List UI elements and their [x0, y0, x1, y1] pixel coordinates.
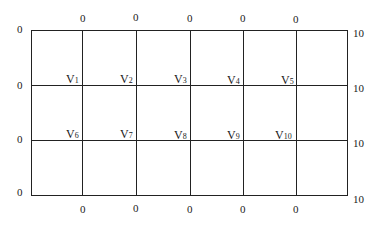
grid-line-col3	[190, 30, 191, 196]
node-label-v6: V6	[66, 128, 79, 142]
left-boundary-value: 0	[17, 187, 23, 198]
node-label-v9: V9	[227, 129, 240, 143]
bottom-boundary-value: 0	[293, 204, 299, 215]
node-label-v1: V1	[66, 73, 79, 87]
grid-line-col2	[136, 30, 137, 196]
node-label-v5: V5	[281, 74, 294, 88]
top-boundary-value: 0	[80, 13, 86, 24]
top-boundary-value: 0	[133, 12, 139, 23]
grid-line-col4	[243, 30, 244, 196]
node-label-v10: V10	[275, 129, 292, 143]
top-boundary-value: 0	[240, 13, 246, 24]
bottom-boundary-value: 0	[187, 204, 193, 215]
top-boundary-value: 0	[187, 13, 193, 24]
node-label-v8: V8	[174, 129, 187, 143]
right-boundary-value: 10	[353, 83, 364, 94]
grid-line-right	[347, 30, 348, 196]
node-label-v4: V4	[227, 74, 240, 88]
bottom-boundary-value: 0	[133, 203, 139, 214]
left-boundary-value: 0	[17, 134, 23, 145]
node-label-v2: V2	[120, 73, 133, 87]
top-boundary-value: 0	[293, 14, 299, 25]
bottom-boundary-value: 0	[80, 204, 86, 215]
left-boundary-value: 0	[17, 24, 23, 35]
bottom-boundary-value: 0	[240, 204, 246, 215]
grid-line-left	[31, 30, 32, 196]
node-label-v7: V7	[120, 128, 133, 142]
grid-line-col1	[82, 30, 83, 196]
right-boundary-value: 10	[353, 194, 364, 205]
node-label-v3: V3	[174, 73, 187, 87]
grid-line-col5	[296, 30, 297, 196]
right-boundary-value: 10	[353, 138, 364, 149]
right-boundary-value: 10	[353, 28, 364, 39]
left-boundary-value: 0	[17, 80, 23, 91]
